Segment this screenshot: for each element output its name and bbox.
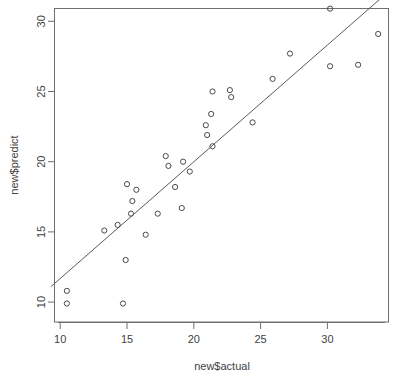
- regression-line: [51, 0, 384, 287]
- data-point: [250, 120, 255, 125]
- data-point: [327, 64, 332, 69]
- x-tick-group: [60, 323, 327, 330]
- data-point: [205, 132, 210, 137]
- data-point: [179, 205, 184, 210]
- data-point: [124, 182, 129, 187]
- y-tick-group: [48, 21, 55, 302]
- data-point: [187, 169, 192, 174]
- data-point: [203, 123, 208, 128]
- y-tick-label-10: 10: [35, 296, 47, 308]
- y-tick-label-25: 25: [35, 85, 47, 97]
- x-tick-label-15: 15: [121, 333, 133, 345]
- data-point: [130, 198, 135, 203]
- data-points-layer: [64, 6, 380, 306]
- data-point: [209, 111, 214, 116]
- scatter-plot-figure: 30 25 20 15 10 new$predict 10 15 20: [0, 0, 397, 377]
- y-tick-labels: 30 25 20 15 10: [35, 15, 47, 308]
- data-point: [229, 95, 234, 100]
- x-tick-labels: 10 15 20 25 30: [54, 333, 333, 345]
- fit-line-group: [51, 0, 384, 287]
- plot-frame-box: [55, 9, 389, 323]
- data-point: [64, 288, 69, 293]
- x-axis: 10 15 20 25 30 new$actual: [54, 323, 385, 373]
- data-point: [181, 159, 186, 164]
- y-tick-label-30: 30: [35, 15, 47, 27]
- data-point: [376, 31, 381, 36]
- data-point: [120, 301, 125, 306]
- data-point: [356, 62, 361, 67]
- plot-svg: 30 25 20 15 10 new$predict 10 15 20: [0, 0, 397, 377]
- data-point: [227, 88, 232, 93]
- data-point: [173, 184, 178, 189]
- data-point: [166, 163, 171, 168]
- data-point: [134, 187, 139, 192]
- data-point: [163, 153, 168, 158]
- x-tick-label-10: 10: [54, 333, 66, 345]
- y-axis: 30 25 20 15 10 new$predict: [8, 12, 55, 310]
- x-tick-label-30: 30: [321, 333, 333, 345]
- data-point: [210, 89, 215, 94]
- data-point: [287, 51, 292, 56]
- x-axis-title: new$actual: [194, 360, 250, 372]
- y-tick-label-15: 15: [35, 226, 47, 238]
- y-tick-label-20: 20: [35, 156, 47, 168]
- data-point: [210, 144, 215, 149]
- data-point: [155, 211, 160, 216]
- data-point: [123, 257, 128, 262]
- data-point: [270, 76, 275, 81]
- data-point: [115, 222, 120, 227]
- data-point: [64, 301, 69, 306]
- x-tick-label-20: 20: [188, 333, 200, 345]
- y-axis-title: new$predict: [8, 135, 20, 194]
- data-point: [128, 211, 133, 216]
- data-point: [102, 228, 107, 233]
- data-point: [143, 232, 148, 237]
- x-tick-label-25: 25: [254, 333, 266, 345]
